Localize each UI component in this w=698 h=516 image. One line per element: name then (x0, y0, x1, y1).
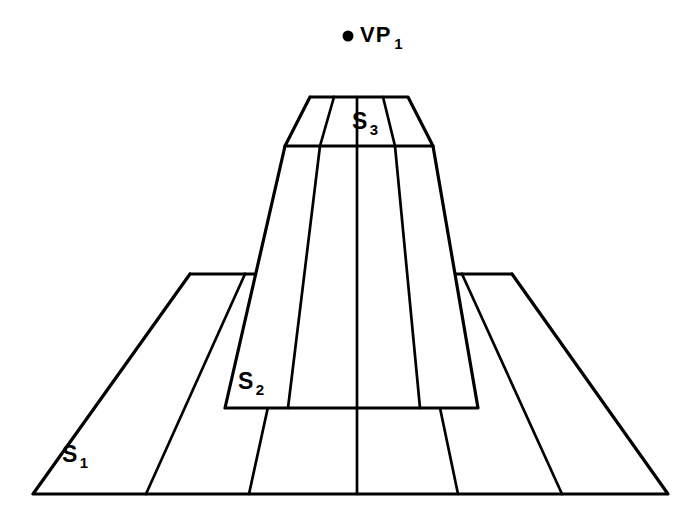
perspective-diagram (0, 0, 698, 516)
tier-s1-label: S1 (62, 443, 86, 466)
tier-s3-label-subscript: 3 (370, 121, 378, 138)
vanishing-point-label: VP1 (360, 24, 400, 46)
tier-s2-label-base: S (238, 368, 254, 394)
tier-s2-label: S2 (238, 370, 262, 393)
vanishing-point-label-subscript: 1 (394, 35, 402, 52)
tier-s3-label-base: S (352, 108, 368, 134)
vanishing-point-label-base: VP (360, 22, 391, 47)
tier-s3-label: S3 (352, 110, 376, 133)
tier-s1-label-base: S (62, 441, 78, 467)
figure-canvas: VP1 S3 S2 S1 (0, 0, 698, 516)
tier-s2-label-subscript: 2 (256, 381, 264, 398)
tier-s2-group (225, 146, 478, 408)
tier-s1-label-subscript: 1 (80, 454, 88, 471)
vanishing-point-dot-icon (343, 31, 354, 42)
